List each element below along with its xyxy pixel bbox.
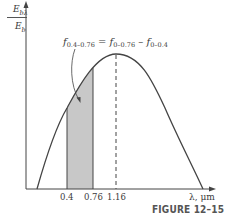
x-tick-1-16: 1.16	[107, 192, 126, 202]
figure-caption: FIGURE 12–15	[152, 203, 224, 216]
y-axis-fraction-bar	[7, 17, 27, 18]
x-tick-0-4: 0.4	[60, 192, 74, 202]
x-axis-label: λ, μm	[189, 192, 215, 202]
x-tick-0-76: 0.76	[84, 192, 103, 202]
spectral-distribution-curve	[37, 54, 203, 189]
y-axis-label-denominator: Eb	[15, 21, 26, 34]
y-axis-label-numerator: Ebλ	[13, 4, 28, 17]
x-axis-arrow-icon	[209, 187, 216, 192]
plot-canvas	[0, 0, 225, 220]
fraction-equation: f0.4–0.76 = f0–0.76 – f0–0.4	[63, 36, 168, 49]
blackbody-fraction-figure: Ebλ Eb f0.4–0.76 = f0–0.76 – f0–0.4 0.4 …	[0, 0, 225, 220]
